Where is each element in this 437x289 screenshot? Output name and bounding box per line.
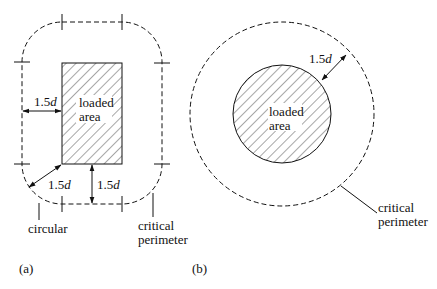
dim-label-corner: 1.5d bbox=[48, 178, 71, 192]
loaded-area-label-a: loadedarea bbox=[79, 96, 114, 124]
dim-label-radial: 1.5d bbox=[309, 52, 332, 66]
diagram-canvas bbox=[0, 0, 437, 289]
callout-critical-perimeter-a: criticalperimeter bbox=[138, 219, 188, 247]
panel-label-a: (a) bbox=[19, 262, 33, 276]
dim-label-left: 1.5d bbox=[34, 95, 57, 109]
callout-circular: circular bbox=[28, 222, 68, 236]
loaded-area-label-b: loadedarea bbox=[269, 105, 304, 133]
callout-critical-perimeter-b: criticalperimeter bbox=[378, 201, 428, 229]
dim-label-bottom: 1.5d bbox=[97, 178, 120, 192]
leader-critical-b bbox=[341, 186, 377, 213]
figure-root: loadedarea 1.5d 1.5d 1.5d circular criti… bbox=[0, 0, 437, 289]
panel-label-b: (b) bbox=[192, 262, 207, 276]
